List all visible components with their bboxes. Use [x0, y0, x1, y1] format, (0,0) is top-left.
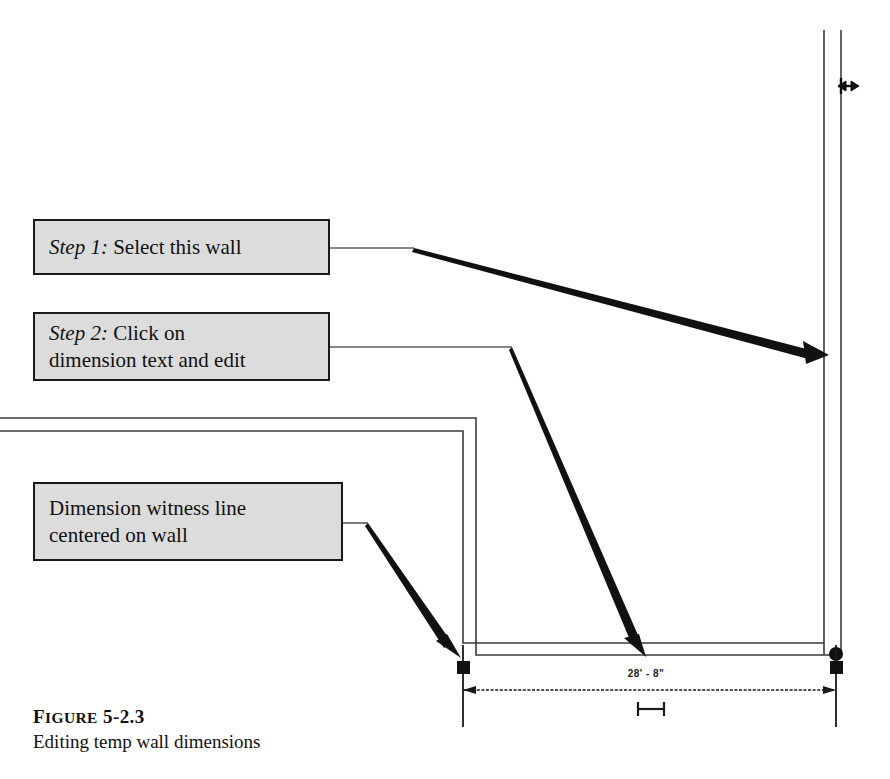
callout-witness-line-1: Dimension witness line	[49, 495, 327, 522]
callout-step-2-line-1: Click on	[113, 321, 185, 345]
callout-step-1[interactable]: Step 1: Select this wall	[33, 219, 330, 275]
leader-arrow-step-2	[330, 347, 646, 657]
callout-witness-line[interactable]: Dimension witness line centered on wall	[33, 482, 343, 561]
figure-caption-label-rest: IGURE	[45, 709, 98, 726]
callout-step-1-text: Step 1: Select this wall	[49, 234, 314, 261]
callout-step-1-emphasis: Step 1:	[49, 235, 108, 259]
square-marker-left-icon[interactable]	[457, 661, 470, 674]
callout-step-2-line-2: dimension text and edit	[49, 347, 314, 374]
dimension-tick-right-icon	[823, 686, 836, 694]
figure-caption-number: 5-2.3	[103, 706, 145, 727]
figure-page: Step 1: Select this wall Step 2: Click o…	[0, 0, 890, 779]
dimension-tick-left-icon	[463, 686, 476, 694]
callout-step-1-line-1: Select this wall	[113, 235, 241, 259]
callout-witness-line-2: centered on wall	[49, 522, 327, 549]
wall-vertical-right[interactable]	[824, 30, 841, 655]
callout-step-2[interactable]: Step 2: Click on dimension text and edit	[33, 312, 330, 381]
dimension-text-label[interactable]: 28' - 8"	[566, 668, 726, 679]
callout-step-2-emphasis: Step 2:	[49, 321, 108, 345]
figure-caption-title: FIGURE 5-2.3	[33, 706, 453, 728]
square-marker-right-icon[interactable]	[830, 661, 843, 674]
bidirectional-arrow-grip-icon[interactable]	[838, 78, 859, 94]
leader-arrow-witness	[343, 523, 461, 658]
callout-step-2-text: Step 2: Click on	[49, 320, 314, 347]
cad-drawing-canvas	[0, 0, 890, 779]
figure-caption-label-first: F	[33, 706, 45, 727]
dimension-string[interactable]	[457, 645, 843, 727]
figure-caption: FIGURE 5-2.3 Editing temp wall dimension…	[33, 706, 453, 753]
figure-caption-text: Editing temp wall dimensions	[33, 731, 453, 753]
horizontal-drag-grip-icon[interactable]	[638, 702, 664, 716]
